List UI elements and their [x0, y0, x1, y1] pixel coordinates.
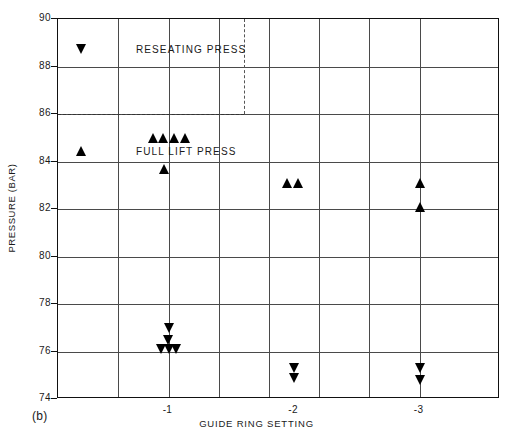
x-tick-label: -3 [399, 404, 439, 415]
full-lift-press-marker [159, 164, 169, 174]
full-lift-press-marker [158, 133, 168, 143]
plot-area: RESEATING PRESSFULL LIFT PRESS [57, 18, 499, 398]
pressure-vs-guide-ring-chart: PRESSURE (BAR) 908886848280787674 RESEAT… [0, 0, 513, 441]
vertical-gridline [219, 19, 220, 397]
full-lift-press-marker [180, 133, 190, 143]
reseating-press-marker [415, 375, 425, 385]
y-tick-label: 84 [25, 156, 51, 166]
y-tick-label: 74 [25, 393, 51, 403]
reseating-press-marker [415, 363, 425, 373]
horizontal-gridline [58, 257, 498, 258]
reference-line-vertical [244, 19, 245, 114]
y-tick-label: 86 [25, 108, 51, 118]
horizontal-gridline [58, 352, 498, 353]
horizontal-gridline [58, 67, 498, 68]
vertical-gridline [319, 19, 320, 397]
full-lift-press-marker [282, 178, 292, 188]
reseating-press-marker [163, 335, 173, 345]
y-tick-label: 80 [25, 251, 51, 261]
vertical-gridline [118, 19, 119, 397]
full-lift-press-marker [415, 202, 425, 212]
up-triangle-icon [76, 146, 86, 156]
y-tick-mark [51, 398, 57, 399]
y-tick-label: 88 [25, 61, 51, 71]
y-tick-label: 76 [25, 346, 51, 356]
horizontal-gridline [58, 209, 498, 210]
full-lift-press-marker [415, 178, 425, 188]
y-tick-label: 78 [25, 298, 51, 308]
y-tick-label: 82 [25, 203, 51, 213]
reseating-press-marker [289, 373, 299, 383]
legend-label: RESEATING PRESS [136, 43, 246, 57]
down-triangle-icon [76, 44, 86, 54]
vertical-gridline [369, 19, 370, 397]
y-axis-label: PRESSURE (BAR) [4, 18, 18, 398]
full-lift-press-marker [293, 178, 303, 188]
reseating-press-marker [171, 344, 181, 354]
horizontal-gridline [58, 304, 498, 305]
full-lift-press-marker [169, 133, 179, 143]
vertical-gridline [269, 19, 270, 397]
x-tick-label: -2 [273, 404, 313, 415]
horizontal-gridline [58, 162, 498, 163]
x-axis-label: GUIDE RING SETTING [0, 418, 513, 429]
full-lift-press-marker [148, 133, 158, 143]
reference-line-86-bar [58, 114, 244, 115]
y-tick-label: 90 [25, 13, 51, 23]
panel-tag: (b) [32, 409, 48, 423]
legend-label: FULL LIFT PRESS [136, 145, 236, 159]
reseating-press-marker [164, 323, 174, 333]
reseating-press-marker [289, 363, 299, 373]
x-tick-label: -1 [148, 404, 188, 415]
